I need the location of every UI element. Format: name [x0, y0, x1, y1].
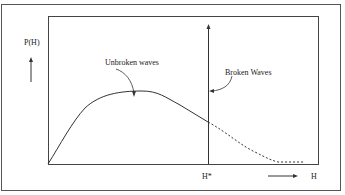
- y-axis-label: P(H): [24, 38, 40, 47]
- broken-waves-label: Broken Waves: [225, 68, 272, 77]
- broken-curve: [208, 122, 305, 162]
- x-axis-label: H: [311, 172, 317, 181]
- unbroken-waves-label: Unbroken waves: [105, 58, 159, 67]
- diagram-canvas: [0, 0, 345, 195]
- unbroken-curve: [48, 91, 208, 164]
- threshold-label: H*: [202, 172, 212, 181]
- plot-box: [49, 17, 319, 165]
